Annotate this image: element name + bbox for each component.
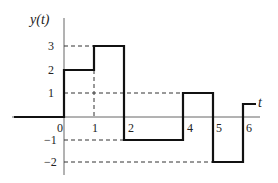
step-function-chart: y(t) t 3 2 1 −1 −2 0 1 2 4 5 6 [0,0,278,183]
y-tick-3: 3 [48,39,54,53]
y-tick-1: 1 [48,86,54,100]
x-tick-5: 5 [216,121,222,135]
y-tick-2: 2 [48,63,54,77]
t-axis-label: t [258,95,263,110]
y-axis-label: y(t) [28,12,50,28]
x-tick-2: 2 [128,121,134,135]
x-tick-4: 4 [187,121,193,135]
x-tick-1: 1 [92,121,98,135]
y-tick-neg2: −2 [44,155,57,169]
x-tick-6: 6 [246,121,252,135]
guide-lines [64,46,213,162]
y-tick-neg1: −1 [44,133,57,147]
x-tick-0: 0 [57,121,63,135]
